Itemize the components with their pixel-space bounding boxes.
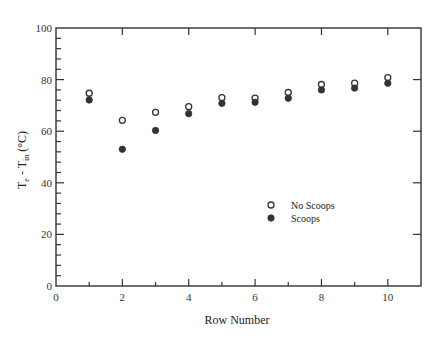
y-tick-label: 100 xyxy=(36,22,53,34)
y-tick-label: 20 xyxy=(41,228,53,240)
y-tick-label: 0 xyxy=(47,280,53,292)
point-no-scoops xyxy=(119,117,125,123)
x-tick-label: 4 xyxy=(186,291,192,303)
x-tick-label: 6 xyxy=(252,291,258,303)
legend: No Scoops Scoops xyxy=(268,200,335,224)
legend-marker-scoops xyxy=(268,215,274,221)
point-scoops xyxy=(318,87,324,93)
point-no-scoops xyxy=(153,109,159,115)
point-scoops xyxy=(186,110,192,116)
x-axis-title: Row Number xyxy=(205,313,270,327)
legend-marker-no-scoops xyxy=(268,202,274,208)
scatter-chart: 0246810 020406080100 No Scoops Scoops Ro… xyxy=(0,0,443,339)
y-axis-title-t2: - T xyxy=(15,160,29,178)
y-axis-title-unit: (°C) xyxy=(15,131,29,155)
point-scoops xyxy=(219,100,225,106)
x-tick-label: 8 xyxy=(319,291,325,303)
point-scoops xyxy=(252,99,258,105)
x-tick-labels: 0246810 xyxy=(53,291,394,303)
y-axis-title: Te - Tin (°C) xyxy=(15,131,31,189)
x-tick-label: 0 xyxy=(53,291,59,303)
point-scoops xyxy=(351,85,357,91)
point-no-scoops xyxy=(186,104,192,110)
plot-border xyxy=(56,28,421,286)
point-scoops xyxy=(152,127,158,133)
data-points xyxy=(86,75,391,153)
point-no-scoops xyxy=(86,90,92,96)
legend-label-no-scoops: No Scoops xyxy=(291,200,335,211)
plot-frame xyxy=(56,28,421,286)
y-tick-label: 40 xyxy=(41,177,53,189)
y-tick-labels: 020406080100 xyxy=(36,22,53,292)
y-tick-label: 60 xyxy=(41,125,53,137)
legend-label-scoops: Scoops xyxy=(291,213,320,224)
point-scoops xyxy=(285,95,291,101)
point-scoops xyxy=(119,146,125,152)
y-tick-label: 80 xyxy=(41,74,53,86)
point-scoops xyxy=(86,97,92,103)
axis-ticks xyxy=(56,28,421,286)
x-tick-label: 2 xyxy=(120,291,126,303)
point-scoops xyxy=(385,80,391,86)
x-tick-label: 10 xyxy=(382,291,394,303)
